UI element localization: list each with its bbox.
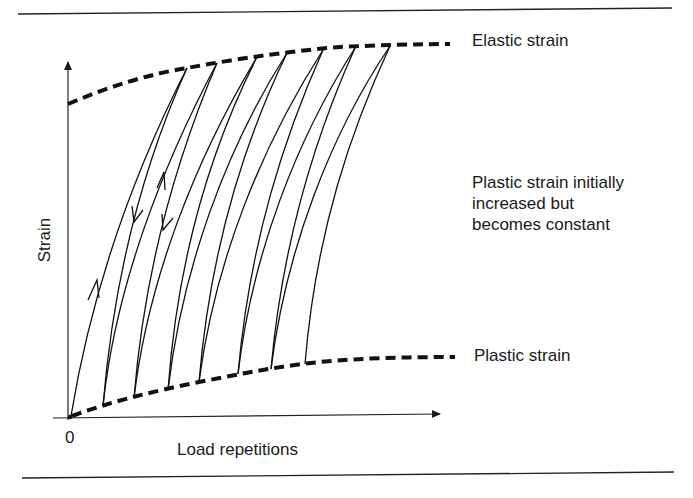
- origin-label: 0: [65, 428, 74, 448]
- origin-point: [68, 415, 72, 419]
- note-line: Plastic strain initially: [472, 172, 624, 193]
- strain-diagram: [0, 0, 693, 498]
- x-axis: [53, 414, 440, 418]
- bottom-rule: [22, 472, 674, 478]
- top-rule: [18, 8, 672, 14]
- plastic-strain-note: Plastic strain initially increased but b…: [472, 172, 624, 235]
- y-axis-label: Strain: [35, 215, 55, 265]
- plastic-strain-curve: [72, 357, 455, 416]
- elastic-strain-curve: [68, 44, 450, 104]
- plastic-strain-label: Plastic strain: [474, 346, 570, 366]
- note-line: becomes constant: [472, 214, 624, 235]
- note-line: increased but: [472, 193, 624, 214]
- loading-arrow-icon: [157, 172, 165, 190]
- x-axis-label: Load repetitions: [177, 440, 298, 460]
- elastic-strain-label: Elastic strain: [472, 31, 568, 51]
